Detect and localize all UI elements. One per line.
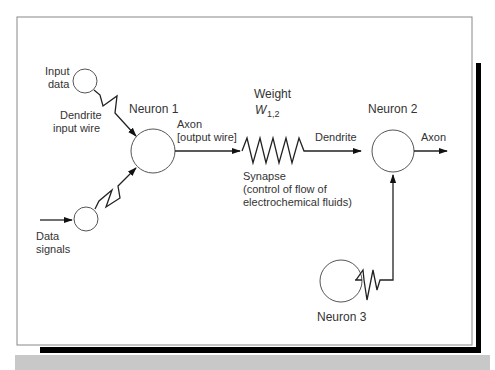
weight-subscript: 1,2 — [267, 109, 280, 119]
bottom-band — [15, 355, 490, 370]
neuron-2-axon-label: Axon — [421, 131, 446, 143]
neuron-1 — [131, 129, 175, 173]
neuron-2-label: Neuron 2 — [368, 102, 418, 116]
neuron-3 — [320, 260, 362, 302]
dendrite-input-label: Dendrite — [60, 109, 102, 121]
neuron-1-label: Neuron 1 — [129, 102, 179, 116]
axon-label: Axon — [177, 118, 202, 130]
synapse-label: Synapse — [243, 170, 286, 182]
dendrite-label: Dendrite — [315, 131, 357, 143]
data-signals-node — [74, 207, 98, 231]
synapse-description: electrochemical fluids) — [243, 196, 352, 208]
neuron-3-label: Neuron 3 — [317, 310, 367, 324]
dendrite-input-label: input wire — [53, 122, 100, 134]
data-signals-label: Data — [36, 230, 60, 242]
weight-label: Weight — [254, 87, 292, 101]
synapse-description: (control of flow of — [243, 183, 328, 195]
frame-shadow-right — [476, 63, 481, 353]
frame-shadow-bottom — [40, 347, 481, 353]
neuron-diagram: Input data Dendrite input wire Neuron 1 … — [0, 0, 495, 370]
neuron-2 — [372, 130, 414, 172]
input-data-node — [73, 69, 97, 93]
data-signals-label: signals — [36, 243, 71, 255]
axon-output-wire-label: [output wire] — [177, 131, 237, 143]
input-data-label: data — [48, 78, 70, 90]
input-data-label: Input — [45, 65, 69, 77]
